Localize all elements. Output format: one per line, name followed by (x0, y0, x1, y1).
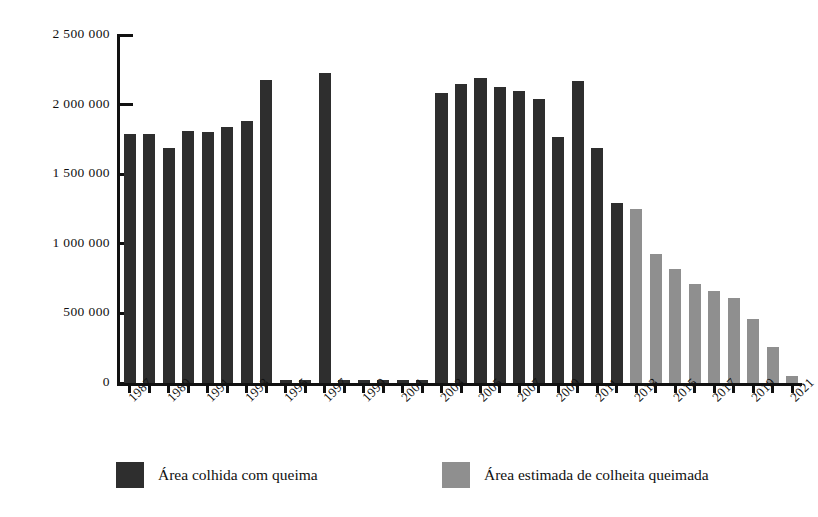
bar-2014 (650, 254, 662, 383)
bar-2008 (533, 99, 545, 383)
bar-1989 (163, 148, 175, 383)
bar-2018 (728, 298, 740, 383)
bar-1993 (241, 121, 253, 383)
y-axis-tick-label: 500 000 (18, 304, 110, 320)
bar-2005 (474, 78, 486, 383)
bar-1988 (143, 134, 155, 383)
y-axis-tick-label: 2 500 000 (18, 26, 110, 42)
bar-2015 (669, 269, 681, 383)
y-axis-tick-label: 2 000 000 (18, 96, 110, 112)
chart-legend: Área colhida com queima Área estimada de… (0, 462, 809, 502)
bar-2017 (708, 291, 720, 383)
bar-2007 (513, 91, 525, 383)
bar-2003 (435, 93, 447, 383)
legend-swatch-estimated-icon (442, 462, 470, 488)
legend-item-harvested[interactable]: Área colhida com queima (116, 462, 318, 488)
bar-2019 (747, 319, 759, 383)
bar-1995 (280, 380, 292, 383)
bar-2010 (572, 81, 584, 383)
bar-1999 (358, 380, 370, 383)
y-axis-tick-label: 1 500 000 (18, 165, 110, 181)
bar-2021 (786, 376, 798, 383)
legend-swatch-harvested-icon (116, 462, 144, 488)
bar-1997 (319, 73, 331, 383)
bar-1990 (182, 131, 194, 383)
bar-1991 (202, 132, 214, 383)
bar-2006 (494, 87, 506, 383)
bar-2004 (455, 84, 467, 383)
bar-2001 (397, 380, 409, 383)
legend-label-estimated: Área estimada de colheita queimada (484, 466, 709, 484)
plot-area (120, 35, 802, 383)
bar-2013 (630, 209, 642, 383)
bar-1992 (221, 127, 233, 383)
y-axis-tick-label: 1 000 000 (18, 235, 110, 251)
y-axis-tick-label: 0 (18, 374, 110, 390)
legend-item-estimated[interactable]: Área estimada de colheita queimada (442, 462, 709, 488)
bar-2016 (689, 284, 701, 383)
bar-2012 (611, 203, 623, 383)
bar-2011 (591, 148, 603, 383)
bar-1994 (260, 80, 272, 383)
bar-1987 (124, 134, 136, 383)
legend-label-harvested: Área colhida com queima (158, 466, 318, 484)
bar-2009 (552, 137, 564, 383)
